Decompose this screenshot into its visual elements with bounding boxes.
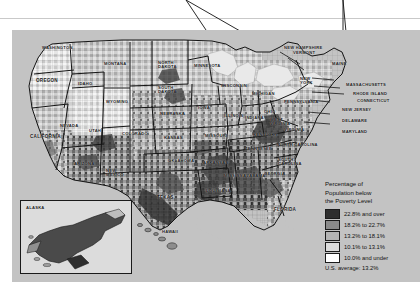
callout-state-label: CONNECTICUT [357,99,390,104]
callout-state-label: VERMONT [293,51,315,56]
state-label: ILLINOIS [224,114,243,119]
map-legend: Percentage of Population below the Pover… [325,180,420,271]
state-label: FLORIDA [274,207,296,212]
alaska-map [21,201,131,273]
state-label: OKLAHOMA [168,159,194,164]
legend-swatch [325,231,340,241]
legend-class-label: 10.0% and under [344,255,388,261]
legend-row: 10.0% and under [325,253,420,262]
hawaii-inset-label: HAWAII [162,230,178,235]
state-label: NORTH CAROLINA [277,143,318,148]
callout-state-label: MASSACHUSETTS [346,83,386,88]
state-label: ARKANSAS [203,161,228,166]
state-label: WYOMING [106,100,128,105]
state-label: WASHINGTON [42,46,73,51]
state-label: TENNESSEE [245,147,272,152]
poverty-map-screenshot: WASHINGTONOREGONCALIFORNIANEVADAIDAHOMON… [0,0,420,298]
state-label: MISSOURI [205,134,227,139]
callout-state-label: NEW JERSEY [342,108,371,113]
state-label: NEVADA [60,124,78,129]
state-label: MONTANA [104,62,126,67]
state-label: MINNESOTA [194,64,221,69]
state-label: TEXAS [157,195,174,200]
state-label: VIRGINIA [284,128,304,133]
state-label: WESTVIRGINIA [270,118,290,127]
legend-class-label: 10.1% to 13.1% [344,244,385,250]
legend-class-list: 22.8% and over18.2% to 22.7%13.2% to 18.… [325,209,420,262]
legend-swatch [325,253,340,263]
state-label: OREGON [36,78,58,83]
legend-row: 13.2% to 18.1% [325,231,420,240]
legend-title-line-3: the Poverty Level [325,197,420,206]
state-label: MAINE [332,62,346,67]
state-label: NORTHDAKOTA [158,61,177,70]
state-label: KENTUCKY [253,133,278,138]
state-label: SOUTHCAROLINA [278,158,302,167]
legend-us-average: U.S. average: 13.2% [325,265,420,271]
state-label: GEORGIA [264,172,285,177]
state-label: WISCONSIN [221,84,247,89]
state-label: ALABAMA [243,174,265,179]
callout-state-label: MARYLAND [342,130,367,135]
state-label: OHIO [264,110,275,115]
callout-state-label: DELAWARE [342,119,367,124]
alaska-inset: ALASKA [20,200,132,274]
state-label: COLORADO [122,132,148,137]
state-label: INDIANA [245,116,264,121]
legend-row: 18.2% to 22.7% [325,220,420,229]
state-label: IDAHO [78,82,92,87]
legend-swatch [325,242,340,252]
state-label: LOUISIANA [206,189,231,194]
alaska-inset-label: ALASKA [26,206,45,211]
legend-row: 10.1% to 13.1% [325,242,420,251]
legend-row: 22.8% and over [325,209,420,218]
state-label: KANSAS [164,136,183,141]
state-label: PENNSYLVANIA [284,100,318,105]
legend-class-label: 13.2% to 18.1% [344,233,385,239]
state-label: IOWA [198,106,210,111]
state-label: CALIFORNIA [30,134,61,139]
hawaii-map [132,216,194,262]
legend-swatch [325,209,340,219]
legend-title-line-1: Percentage of [325,180,420,189]
state-label: NEWMEXICO [106,169,124,178]
state-label: SOUTHDAKOTA [158,86,177,95]
top-divider-rule [0,18,420,19]
legend-class-label: 18.2% to 22.7% [344,222,385,228]
callout-state-label: RHODE ISLAND [353,92,387,97]
legend-title: Percentage of Population below the Pover… [325,180,420,206]
map-panel: WASHINGTONOREGONCALIFORNIANEVADAIDAHOMON… [12,30,420,282]
legend-title-line-2: Population below [325,189,420,198]
state-label: ARIZONA [74,162,94,167]
state-label: UTAH [89,129,101,134]
state-label: NEBRASKA [160,112,185,117]
state-label: NEWYORK [300,77,313,86]
state-label: MICHIGAN [252,92,275,97]
legend-class-label: 22.8% and over [344,211,385,217]
legend-swatch [325,220,340,230]
